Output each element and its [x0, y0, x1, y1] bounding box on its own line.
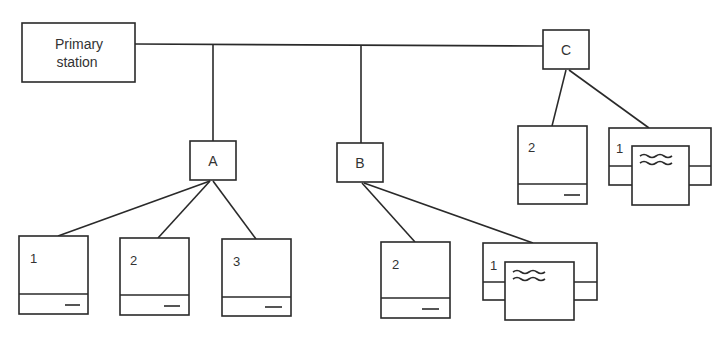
- node-c: C: [543, 30, 589, 69]
- node-c-label: C: [561, 42, 571, 58]
- link-a-1: [58, 181, 210, 236]
- node-a: A: [190, 141, 236, 180]
- primary-station-label-line2: station: [56, 54, 97, 70]
- terminal-b-2-label: 2: [392, 257, 399, 272]
- printer-b-1-label: 1: [490, 258, 497, 273]
- primary-station: Primary station: [22, 23, 135, 82]
- main-bus-line: [135, 44, 543, 46]
- node-a-label: A: [208, 153, 218, 169]
- terminal-a-2-label: 2: [130, 253, 137, 268]
- terminal-a-1: 1: [19, 236, 88, 314]
- node-b: B: [337, 143, 383, 182]
- printer-c-1: 1: [609, 128, 711, 205]
- terminal-a-2: 2: [120, 238, 189, 315]
- terminal-a-3-label: 3: [233, 254, 240, 269]
- network-diagram: Primary station A 1 2 3 B 2: [0, 0, 728, 339]
- link-a-3: [213, 181, 256, 239]
- primary-station-label-line1: Primary: [55, 36, 103, 52]
- link-c-1: [569, 70, 649, 128]
- link-a-2: [158, 181, 210, 238]
- terminal-a-3: 3: [222, 239, 291, 316]
- terminal-c-2: 2: [518, 126, 587, 204]
- link-c-2: [552, 70, 566, 126]
- printer-c-1-label: 1: [616, 141, 623, 156]
- terminal-c-2-label: 2: [528, 140, 535, 155]
- terminal-b-2: 2: [381, 242, 450, 318]
- printer-b-1: 1: [483, 243, 597, 320]
- node-b-label: B: [355, 155, 364, 171]
- terminal-a-1-label: 1: [30, 251, 37, 266]
